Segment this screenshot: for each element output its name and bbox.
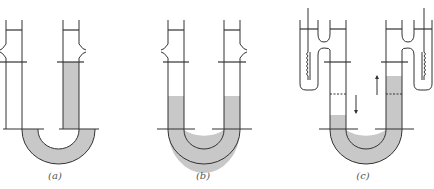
panel-c-u-tube: [300, 8, 432, 164]
panel-b-label: (b): [188, 170, 218, 181]
panel-a-u-tube: [0, 20, 99, 164]
panel-b-u-tube: [157, 20, 252, 173]
panel-c-label: (c): [348, 170, 378, 181]
u-tube-figure: .w { fill: none; stroke: #333; stroke-wi…: [0, 0, 434, 189]
panel-a-label: (a): [40, 170, 70, 181]
